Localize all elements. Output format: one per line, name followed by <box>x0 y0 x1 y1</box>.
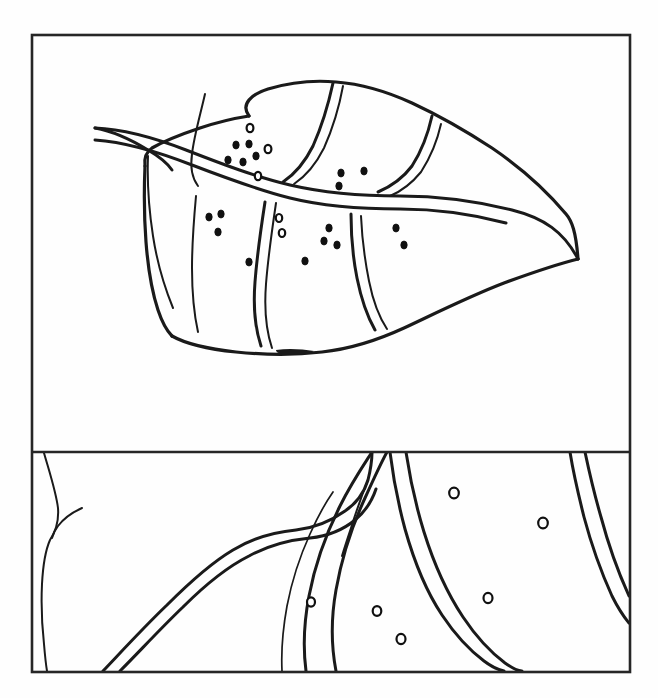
leaf-spot <box>326 224 332 232</box>
leaf-spot <box>397 634 406 644</box>
leaf-spot <box>538 518 548 529</box>
leaf-spot <box>246 140 252 148</box>
figure-root: Leaf with spots — line drawing <box>0 0 658 698</box>
leaf-spot <box>307 597 315 606</box>
leaf-spot <box>253 152 259 160</box>
leaf-spot <box>215 228 221 236</box>
leaf-spot <box>334 241 340 249</box>
leaf-spot <box>484 593 493 603</box>
leaf-spot <box>276 214 282 222</box>
leaf-spot <box>246 258 252 266</box>
leaf-spot <box>449 488 459 499</box>
leaf-spot <box>321 237 327 245</box>
leaf-spot <box>279 229 285 237</box>
leaf-spot <box>265 145 272 153</box>
leaf-spot <box>218 210 224 218</box>
leaf-spot <box>338 169 344 177</box>
leaf-spot <box>393 224 399 232</box>
leaf-spot <box>233 141 239 149</box>
leaf-spot <box>247 124 254 132</box>
leaf-spot <box>302 257 308 265</box>
leaf-spot <box>361 167 367 175</box>
leaf-spot <box>401 241 407 249</box>
leaf-spot <box>373 606 382 616</box>
leaf-spot <box>225 156 231 164</box>
leaf-illustration-svg <box>0 0 658 698</box>
leaf-spot <box>240 158 246 166</box>
leaf-spot <box>206 213 212 221</box>
leaf-spot <box>336 182 342 190</box>
leaf-spot <box>255 172 261 180</box>
